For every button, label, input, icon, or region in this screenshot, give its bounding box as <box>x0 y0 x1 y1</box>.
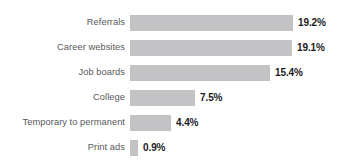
bar <box>130 90 195 106</box>
chart-row: Referrals 19.2% <box>0 14 346 31</box>
value-label: 4.4% <box>176 114 198 131</box>
bar <box>130 115 171 131</box>
bar <box>130 15 293 31</box>
bar <box>130 140 138 156</box>
bar-zone: 15.4% <box>130 64 346 81</box>
category-label: Job boards <box>0 64 125 81</box>
bar-zone: 7.5% <box>130 89 346 106</box>
bar-zone: 19.2% <box>130 14 346 31</box>
value-label: 19.1% <box>297 39 325 56</box>
bar-zone: 0.9% <box>130 139 346 156</box>
chart-row: Temporary to permanent 4.4% <box>0 114 346 131</box>
bar <box>130 40 292 56</box>
bar <box>130 65 270 81</box>
category-label: Referrals <box>0 14 125 31</box>
bar-zone: 4.4% <box>130 114 346 131</box>
category-label: Temporary to permanent <box>0 114 125 131</box>
value-label: 19.2% <box>298 14 326 31</box>
value-label: 15.4% <box>275 64 303 81</box>
category-label: Career websites <box>0 39 125 56</box>
chart-row: Job boards 15.4% <box>0 64 346 81</box>
value-label: 7.5% <box>200 89 222 106</box>
category-label: Print ads <box>0 139 125 156</box>
bar-zone: 19.1% <box>130 39 346 56</box>
horizontal-bar-chart: Referrals 19.2% Career websites 19.1% Jo… <box>0 0 346 162</box>
value-label: 0.9% <box>143 139 165 156</box>
chart-row: College 7.5% <box>0 89 346 106</box>
chart-row: Career websites 19.1% <box>0 39 346 56</box>
chart-row: Print ads 0.9% <box>0 139 346 156</box>
category-label: College <box>0 89 125 106</box>
